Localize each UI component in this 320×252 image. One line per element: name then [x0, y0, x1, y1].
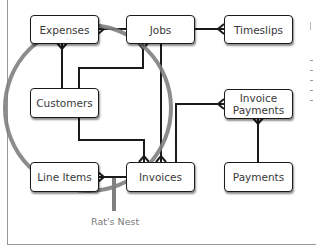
entity-timeslips[interactable]: Timeslips	[224, 15, 293, 44]
entity-label-line1: Invoice	[240, 92, 278, 104]
entity-label: Jobs	[150, 24, 172, 36]
entity-invoice-payments[interactable]: Invoice Payments	[224, 89, 293, 119]
entity-label: Line Items	[37, 171, 92, 183]
rats-nest-label: Rat's Nest	[91, 216, 139, 227]
entity-label: Customers	[36, 97, 92, 109]
entity-label: Payments	[233, 171, 284, 183]
entity-expenses[interactable]: Expenses	[30, 15, 99, 44]
entity-line-items[interactable]: Line Items	[30, 162, 99, 192]
entity-label: Timeslips	[234, 24, 283, 36]
entity-jobs[interactable]: Jobs	[126, 15, 195, 44]
entity-label: Expenses	[39, 24, 89, 36]
entity-label: Invoices	[139, 171, 182, 183]
entity-payments[interactable]: Payments	[224, 162, 293, 192]
entity-customers[interactable]: Customers	[30, 88, 99, 118]
entity-invoices[interactable]: Invoices	[126, 162, 195, 192]
entity-label-line2: Payments	[233, 104, 284, 116]
